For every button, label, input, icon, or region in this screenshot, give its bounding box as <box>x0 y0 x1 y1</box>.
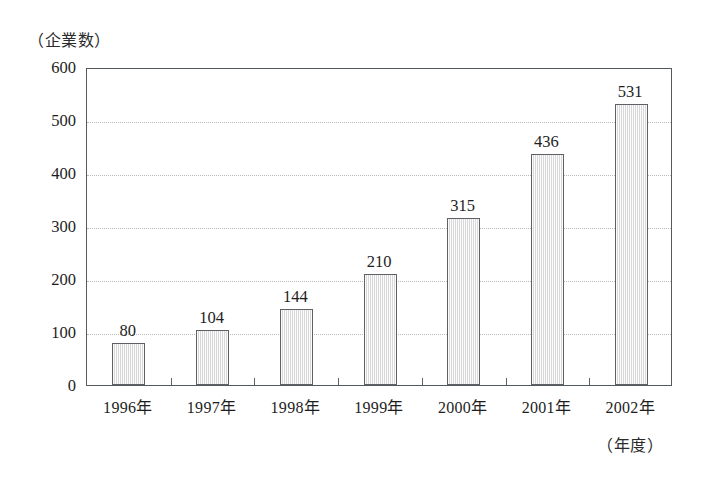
x-axis-category-label: 1997年 <box>167 394 257 418</box>
y-axis-title: （企業数） <box>28 27 111 51</box>
y-axis-tick-label: 500 <box>28 111 76 131</box>
gridline <box>87 228 671 229</box>
x-axis-tick-mark <box>506 378 507 385</box>
y-axis-tick-label: 300 <box>28 217 76 237</box>
x-axis-category-label: 2002年 <box>585 394 675 418</box>
bar-fill-texture <box>365 275 396 384</box>
x-axis-category-label: 1998年 <box>250 394 340 418</box>
y-axis-tick-label: 600 <box>28 58 76 78</box>
bar-value-label: 80 <box>98 321 158 341</box>
bar-chart: （企業数） 0100200300400500600 80104144210315… <box>0 0 708 477</box>
y-axis-tick-label: 100 <box>28 323 76 343</box>
bar <box>112 343 145 385</box>
y-axis-tick-label: 0 <box>28 376 76 396</box>
x-axis-tick-mark <box>589 378 590 385</box>
x-axis-category-label: 1996年 <box>83 394 173 418</box>
bar-fill-texture <box>532 155 563 384</box>
bar-fill-texture <box>197 331 228 384</box>
bar <box>280 309 313 385</box>
bar <box>364 274 397 385</box>
bar-fill-texture <box>113 344 144 384</box>
bar-fill-texture <box>281 310 312 384</box>
bar-value-label: 315 <box>433 196 493 216</box>
x-axis-tick-mark <box>171 378 172 385</box>
bar <box>196 330 229 385</box>
bar-value-label: 531 <box>600 82 660 102</box>
x-axis-tick-mark <box>338 378 339 385</box>
bar-value-label: 144 <box>265 287 325 307</box>
x-axis-category-label: 2000年 <box>418 394 508 418</box>
plot-area <box>86 68 672 386</box>
bar <box>615 104 648 385</box>
x-axis-category-label: 1999年 <box>334 394 424 418</box>
x-axis-title: （年度） <box>597 432 663 456</box>
bar-fill-texture <box>448 219 479 384</box>
bar-value-label: 104 <box>182 308 242 328</box>
bar <box>531 154 564 385</box>
bar <box>447 218 480 385</box>
x-axis-tick-mark <box>422 378 423 385</box>
gridline <box>87 122 671 123</box>
x-axis-tick-mark <box>254 378 255 385</box>
y-axis-tick-label: 400 <box>28 164 76 184</box>
bar-fill-texture <box>616 105 647 384</box>
y-axis-tick-label: 200 <box>28 270 76 290</box>
bar-value-label: 210 <box>349 252 409 272</box>
x-axis-category-label: 2001年 <box>501 394 591 418</box>
bar-value-label: 436 <box>516 132 576 152</box>
gridline <box>87 175 671 176</box>
